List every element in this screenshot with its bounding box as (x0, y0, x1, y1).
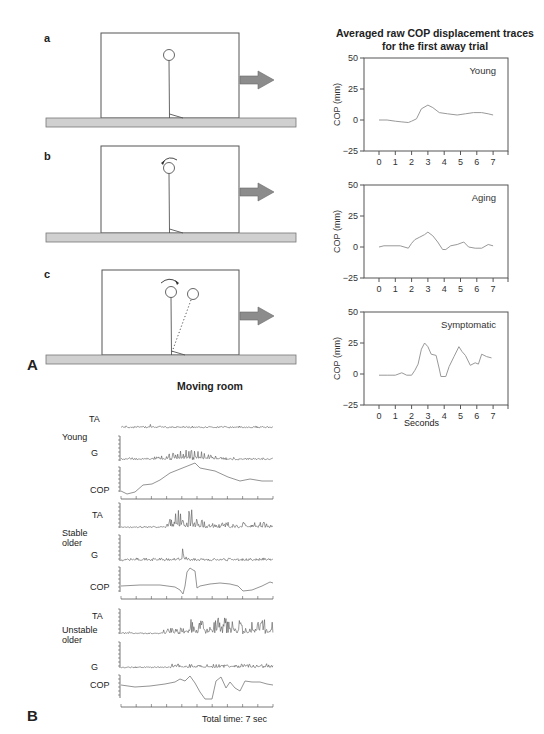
unstable-cop-trace (121, 676, 273, 699)
young-ta-trace (121, 424, 273, 428)
young-cop-trace (121, 463, 273, 494)
emg-traces (0, 0, 544, 734)
stable-cop-trace (121, 568, 273, 594)
stable-g-trace (121, 549, 273, 561)
young-g-trace (121, 450, 273, 460)
unstable-ta-trace (121, 618, 273, 634)
unstable-g-trace (121, 664, 273, 668)
stable-ta-trace (121, 510, 273, 528)
